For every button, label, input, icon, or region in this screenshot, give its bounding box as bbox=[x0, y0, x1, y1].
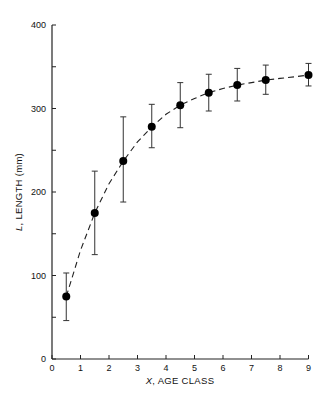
y-tick-label: 200 bbox=[31, 187, 46, 197]
marker-circle bbox=[305, 71, 313, 79]
x-tick-label: 7 bbox=[249, 363, 254, 373]
x-tick-label: 2 bbox=[106, 363, 111, 373]
marker-circle bbox=[148, 123, 156, 131]
axes: 01002003004000123456789 bbox=[31, 20, 311, 373]
x-tick-label: 9 bbox=[306, 363, 311, 373]
data-point bbox=[62, 273, 70, 321]
x-axis-title: X, AGE CLASS bbox=[145, 375, 215, 386]
data-point bbox=[305, 63, 313, 86]
y-tick-label: 0 bbox=[41, 354, 46, 364]
x-tick-label: 0 bbox=[49, 363, 54, 373]
y-tick-label: 400 bbox=[31, 20, 46, 30]
data-point bbox=[205, 74, 213, 111]
x-tick-label: 1 bbox=[78, 363, 83, 373]
marker-circle bbox=[233, 81, 241, 89]
data-point bbox=[176, 83, 184, 128]
fitted-curve bbox=[66, 75, 308, 296]
dashed-growth-curve bbox=[66, 75, 308, 296]
data-point bbox=[148, 104, 156, 147]
data-point bbox=[91, 171, 99, 255]
y-tick-label: 300 bbox=[31, 104, 46, 114]
marker-circle bbox=[119, 157, 127, 165]
marker-circle bbox=[262, 76, 270, 84]
x-tick-label: 8 bbox=[277, 363, 282, 373]
data-point bbox=[262, 65, 270, 94]
marker-circle bbox=[205, 89, 213, 97]
x-tick-label: 4 bbox=[163, 363, 168, 373]
marker-circle bbox=[91, 209, 99, 217]
x-tick-label: 3 bbox=[135, 363, 140, 373]
data-point bbox=[233, 68, 241, 101]
data-point bbox=[119, 117, 127, 202]
marker-circle bbox=[176, 101, 184, 109]
marker-circle bbox=[62, 292, 70, 300]
x-tick-label: 5 bbox=[192, 363, 197, 373]
x-tick-label: 6 bbox=[220, 363, 225, 373]
growth-chart: 01002003004000123456789 X, AGE CLASS L, … bbox=[0, 0, 327, 404]
y-axis-title: L, LENGTH (mm) bbox=[13, 153, 24, 231]
y-tick-label: 100 bbox=[31, 271, 46, 281]
